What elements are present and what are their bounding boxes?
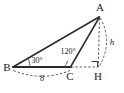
length-label-bc: 8 [40,73,44,83]
angle-arc-c [64,61,68,67]
vertex-label-c: C [66,70,73,82]
height-arc-dashed [100,18,107,66]
angle-arc-b [28,58,31,67]
vertex-label-b: B [3,61,10,73]
segment-ah-altitude [98,18,99,67]
right-angle-marker-h [92,62,98,68]
vertex-label-a: A [96,1,104,13]
angle-label-b: 30° [31,56,42,65]
angle-label-c: 120° [60,47,75,56]
vertex-label-h: H [94,70,102,82]
length-label-ah: h [110,37,115,47]
geometry-canvas: A B C H 30° 120° 8 h [0,0,124,93]
geometry-figure: A B C H 30° 120° 8 h [0,0,124,93]
segment-ba [13,17,99,67]
